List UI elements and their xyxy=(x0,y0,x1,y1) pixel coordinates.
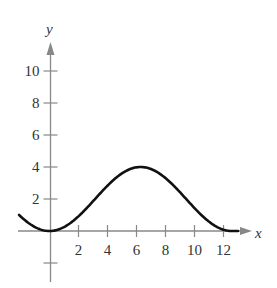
y-tick-label: 4 xyxy=(32,159,40,175)
x-tick-label: 6 xyxy=(133,242,141,258)
x-tick-label: 12 xyxy=(216,242,231,258)
y-tick-label: 6 xyxy=(32,127,40,143)
y-tick-label: 2 xyxy=(32,191,40,207)
x-tick-label: 2 xyxy=(75,242,83,258)
x-tick-label: 8 xyxy=(162,242,170,258)
x-axis-label: x xyxy=(254,225,262,241)
x-axis-arrow-icon xyxy=(240,227,252,235)
y-axis-arrow-icon xyxy=(47,42,55,55)
tick-labels: 24681012246810 xyxy=(25,63,232,258)
y-tick-label: 10 xyxy=(25,63,40,79)
y-axis-label: y xyxy=(44,21,53,37)
x-tick-label: 4 xyxy=(104,242,112,258)
y-tick-label: 8 xyxy=(32,95,40,111)
x-tick-label: 10 xyxy=(187,242,202,258)
function-graph: 24681012246810 x y xyxy=(0,0,277,288)
